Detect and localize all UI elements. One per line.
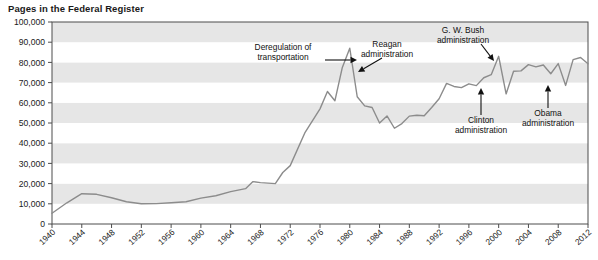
x-tick-label: 1980 [335,227,356,247]
annotation-label-line1: G. W. Bush [442,25,485,35]
plot-band [52,123,588,143]
annotation-label-line2: administration [361,49,413,59]
plot-band [52,22,588,42]
annotation-label-line1: Reagan [372,39,402,49]
plot-band [52,204,588,224]
annotation-label-line2: transportation [257,52,309,62]
plot-band [52,184,588,204]
federal-register-chart: Pages in the Federal Register 010,00020,… [0,0,598,260]
x-tick-label: 1996 [454,227,475,247]
x-tick-label: 1968 [245,227,266,247]
plot-band [52,163,588,183]
y-tick-label: 100,000 [14,17,45,27]
x-tick-label: 1976 [305,227,326,247]
y-tick-label: 40,000 [19,138,46,148]
x-tick-label: 1984 [364,227,385,247]
x-tick-label: 1992 [424,227,445,247]
x-tick-label: 1940 [37,227,58,247]
x-tick-label: 1952 [126,227,147,247]
x-tick-label: 1956 [156,227,177,247]
x-tick-label: 1964 [215,227,236,247]
x-tick-label: 2004 [513,227,534,247]
x-tick-label: 1988 [394,227,415,247]
plot-band [52,83,588,103]
annotation-label-line1: Deregulation of [255,42,312,52]
y-axis-ticks [48,22,52,224]
x-tick-label: 1960 [186,227,207,247]
y-tick-label: 70,000 [19,78,46,88]
plot-band [52,42,588,62]
x-axis-tick-labels: 1940194419481952195619601964196819721976… [37,227,594,247]
y-tick-label: 30,000 [19,159,46,169]
x-tick-label: 1972 [275,227,296,247]
x-tick-label: 2012 [573,227,594,247]
y-tick-label: 90,000 [19,37,46,47]
y-tick-label: 20,000 [19,179,46,189]
annotation-label-line1: Obama [534,108,562,118]
x-tick-label: 2008 [543,227,564,247]
annotation-label-line2: administration [437,35,489,45]
x-axis-ticks [52,224,588,228]
y-tick-label: 10,000 [19,199,46,209]
y-tick-label: 80,000 [19,58,46,68]
y-tick-label: 60,000 [19,98,46,108]
plot-background-bands [52,22,588,224]
annotation-label-line2: administration [522,118,574,128]
plot-band [52,103,588,123]
y-tick-label: 50,000 [19,118,46,128]
annotation-label-line2: administration [455,125,507,135]
annotation-label-line1: Clinton [468,115,494,125]
y-axis-tick-labels: 010,00020,00030,00040,00050,00060,00070,… [14,17,45,229]
x-tick-label: 1948 [96,227,117,247]
y-tick-label: 0 [40,219,45,229]
chart-plot-svg: 010,00020,00030,00040,00050,00060,00070,… [0,0,598,260]
x-tick-label: 1944 [67,227,88,247]
plot-band [52,143,588,163]
x-tick-label: 2000 [483,227,504,247]
plot-band [52,62,588,82]
